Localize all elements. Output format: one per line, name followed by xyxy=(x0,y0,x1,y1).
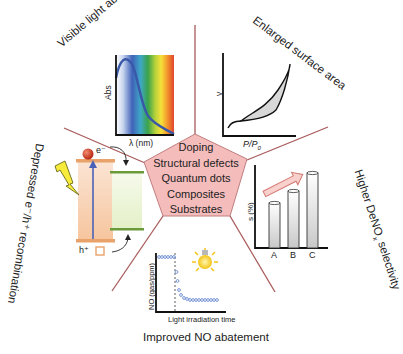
strategy-substrates: Substrates xyxy=(145,202,247,218)
bar-label-b: B xyxy=(290,250,296,260)
hole-label: h⁺ xyxy=(79,245,89,255)
electron-icon xyxy=(83,149,94,160)
no-axis-label: NO (gas/ppm) xyxy=(147,263,156,310)
time-axis-label: Light irradiation time xyxy=(168,315,236,324)
strategy-quantum-dots: Quantum dots xyxy=(145,171,247,187)
hole-icon xyxy=(96,247,104,255)
strategy-doping: Doping xyxy=(145,140,247,156)
surface-area-plot xyxy=(223,53,296,136)
strategy-composites: Composites xyxy=(145,187,247,203)
bar-label-a: A xyxy=(271,250,277,260)
lightning-icon xyxy=(55,161,79,195)
no-abatement-title: Improved NO abatement xyxy=(143,331,269,343)
strategy-list: Doping Structural defects Quantum dots C… xyxy=(145,140,247,218)
strategy-structural-defects: Structural defects xyxy=(145,156,247,172)
pressure-label-sub: 0 xyxy=(258,145,261,151)
band-diagram xyxy=(55,147,144,255)
bar-label-c: C xyxy=(309,250,316,260)
selectivity-axis-label: s (%) xyxy=(246,202,255,221)
visible-light-absorption-plot xyxy=(116,55,174,135)
abs-axis-label: Abs xyxy=(103,85,113,100)
v-axis-label: v xyxy=(214,92,224,96)
selectivity-bar-chart xyxy=(255,165,328,248)
electron-label: e⁻ xyxy=(96,145,106,155)
light-bulb-icon xyxy=(192,248,218,271)
